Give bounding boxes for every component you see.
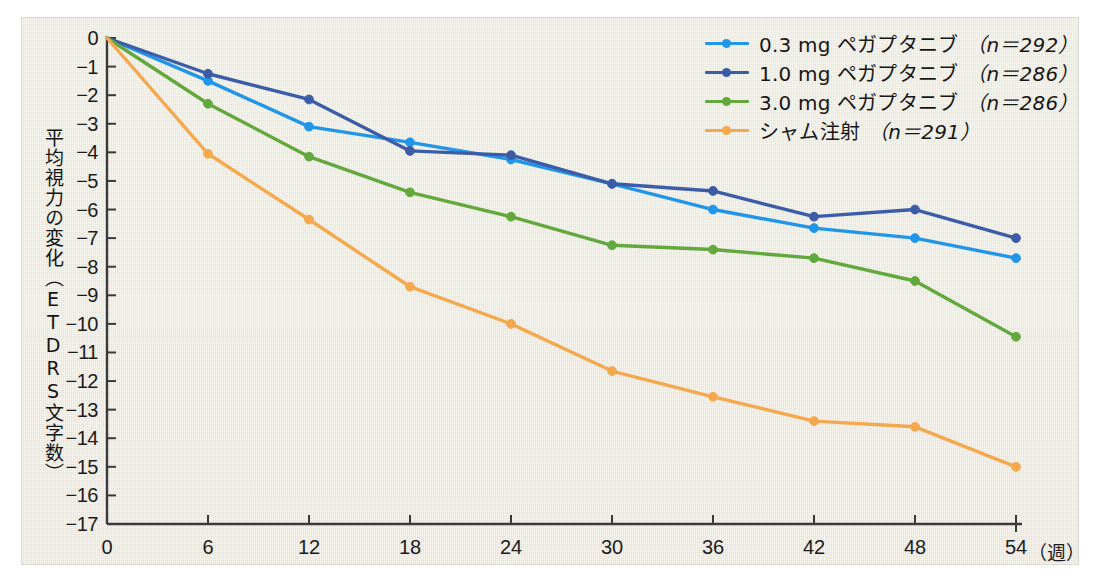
legend-label-dose: 3.0 mg ペガプタニブ <box>759 91 958 115</box>
y-tick-label: −3 <box>46 112 98 135</box>
legend-label-n: （n＝286） <box>966 62 1078 86</box>
legend-label: 1.0 mg ペガプタニブ（n＝286） <box>759 58 1079 87</box>
legend-item-2: 3.0 mg ペガプタニブ（n＝286） <box>705 88 1079 114</box>
data-point <box>305 95 314 104</box>
data-point <box>406 188 415 197</box>
data-point <box>507 319 516 328</box>
data-point <box>1012 332 1021 341</box>
y-tick-label: −2 <box>46 84 98 107</box>
data-point <box>911 205 920 214</box>
legend-label-n: （n＝292） <box>966 33 1078 57</box>
data-point <box>709 205 718 214</box>
legend-swatch-icon <box>705 94 749 108</box>
data-point <box>810 224 819 233</box>
y-tick-label: −9 <box>46 284 98 307</box>
data-point <box>406 147 415 156</box>
y-tick-label: −11 <box>46 341 98 364</box>
x-tick-label: 48 <box>904 536 926 559</box>
legend-label: 3.0 mg ペガプタニブ（n＝286） <box>759 87 1079 116</box>
y-tick-label: −12 <box>46 370 98 393</box>
legend-item-0: 0.3 mg ペガプタニブ（n＝292） <box>705 30 1079 56</box>
data-point <box>810 254 819 263</box>
y-tick-label: −14 <box>46 427 98 450</box>
legend-label-n: （n＝286） <box>966 91 1078 115</box>
data-point <box>1012 254 1021 263</box>
data-point <box>305 122 314 131</box>
legend-label: シャム注射（n＝291） <box>759 116 980 145</box>
x-tick-label: 42 <box>803 536 825 559</box>
legend-label-dose: 0.3 mg ペガプタニブ <box>759 33 958 57</box>
y-tick-label: −1 <box>46 55 98 78</box>
y-tick-label: −17 <box>46 513 98 536</box>
legend-item-1: 1.0 mg ペガプタニブ（n＝286） <box>705 59 1079 85</box>
y-tick-label: −16 <box>46 484 98 507</box>
data-point <box>1012 462 1021 471</box>
data-point <box>507 212 516 221</box>
chart-legend: 0.3 mg ペガプタニブ（n＝292）1.0 mg ペガプタニブ（n＝286）… <box>705 30 1079 146</box>
legend-label-dose: 1.0 mg ペガプタニブ <box>759 62 958 86</box>
y-tick-label: 0 <box>46 27 98 50</box>
data-point <box>911 422 920 431</box>
legend-label: 0.3 mg ペガプタニブ（n＝292） <box>759 29 1079 58</box>
figure-page: 平均視力の変化（ETDRS文字数） 0−1−2−3−4−5−6−7−8−9−10… <box>0 0 1098 581</box>
data-point <box>204 69 213 78</box>
data-point <box>810 417 819 426</box>
legend-label-dose: シャム注射 <box>759 120 860 144</box>
y-tick-label: −6 <box>46 198 98 221</box>
x-tick-label: 18 <box>399 536 421 559</box>
data-point <box>608 241 617 250</box>
data-point <box>709 245 718 254</box>
legend-item-3: シャム注射（n＝291） <box>705 117 1079 143</box>
data-point <box>911 234 920 243</box>
data-point <box>305 152 314 161</box>
y-tick-label: −13 <box>46 398 98 421</box>
legend-swatch-icon <box>705 36 749 50</box>
data-point <box>406 138 415 147</box>
data-point <box>709 187 718 196</box>
legend-swatch-icon <box>705 123 749 137</box>
data-point <box>608 179 617 188</box>
y-tick-label: −15 <box>46 455 98 478</box>
y-tick-label: −7 <box>46 227 98 250</box>
x-tick-label: 54 <box>1005 536 1027 559</box>
data-point <box>810 212 819 221</box>
data-point <box>305 215 314 224</box>
x-tick-label: 24 <box>500 536 522 559</box>
data-point <box>507 151 516 160</box>
x-tick-label: 36 <box>702 536 724 559</box>
y-tick-label: −5 <box>46 169 98 192</box>
legend-swatch-icon <box>705 65 749 79</box>
data-point <box>709 392 718 401</box>
data-point <box>608 367 617 376</box>
y-tick-label: −4 <box>46 141 98 164</box>
data-point <box>911 277 920 286</box>
y-tick-label: −8 <box>46 255 98 278</box>
y-axis-ticks <box>107 38 116 524</box>
legend-label-n: （n＝291） <box>868 120 980 144</box>
x-tick-label: 30 <box>601 536 623 559</box>
x-tick-label: 0 <box>101 536 112 559</box>
x-axis-unit-label: （週） <box>1028 538 1085 565</box>
x-tick-label: 6 <box>202 536 213 559</box>
data-point <box>406 282 415 291</box>
data-point <box>204 99 213 108</box>
y-tick-label: −10 <box>46 312 98 335</box>
data-point <box>204 149 213 158</box>
data-point <box>1012 234 1021 243</box>
x-tick-label: 12 <box>298 536 320 559</box>
